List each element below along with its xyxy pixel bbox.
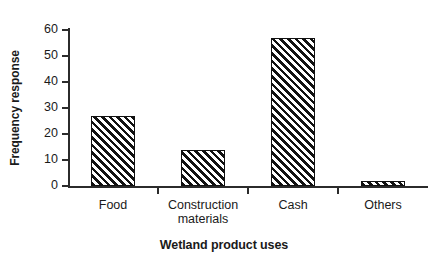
y-tick-label: 20 — [28, 127, 58, 139]
y-tick-mark — [62, 55, 68, 57]
y-tick-mark — [62, 29, 68, 31]
y-tick-mark — [62, 107, 68, 109]
x-category-label: Food — [68, 198, 158, 212]
bar — [271, 38, 315, 186]
y-tick-label: 40 — [28, 75, 58, 87]
x-axis-title: Wetland product uses — [0, 238, 448, 252]
x-tick-mark — [337, 188, 339, 194]
y-tick-mark — [62, 133, 68, 135]
y-axis-title: Frequency response — [6, 30, 24, 186]
y-tick-label: 30 — [28, 101, 58, 113]
x-category-label: Cash — [248, 198, 338, 212]
y-axis-line — [68, 28, 70, 188]
bar — [91, 116, 135, 186]
y-tick-mark — [62, 185, 68, 187]
y-tick-label: 50 — [28, 49, 58, 61]
bar — [181, 150, 225, 186]
y-tick-label: 60 — [28, 23, 58, 35]
bar — [361, 181, 405, 186]
y-tick-mark — [62, 81, 68, 83]
y-tick-label: 10 — [28, 153, 58, 165]
x-tick-mark — [157, 188, 159, 194]
y-tick-label: 0 — [28, 179, 58, 191]
x-category-label: Others — [338, 198, 428, 212]
bar-chart-figure: Frequency response 0102030405060 FoodCon… — [0, 0, 448, 274]
x-tick-mark — [247, 188, 249, 194]
y-tick-mark — [62, 159, 68, 161]
x-category-label: Construction materials — [158, 198, 248, 226]
